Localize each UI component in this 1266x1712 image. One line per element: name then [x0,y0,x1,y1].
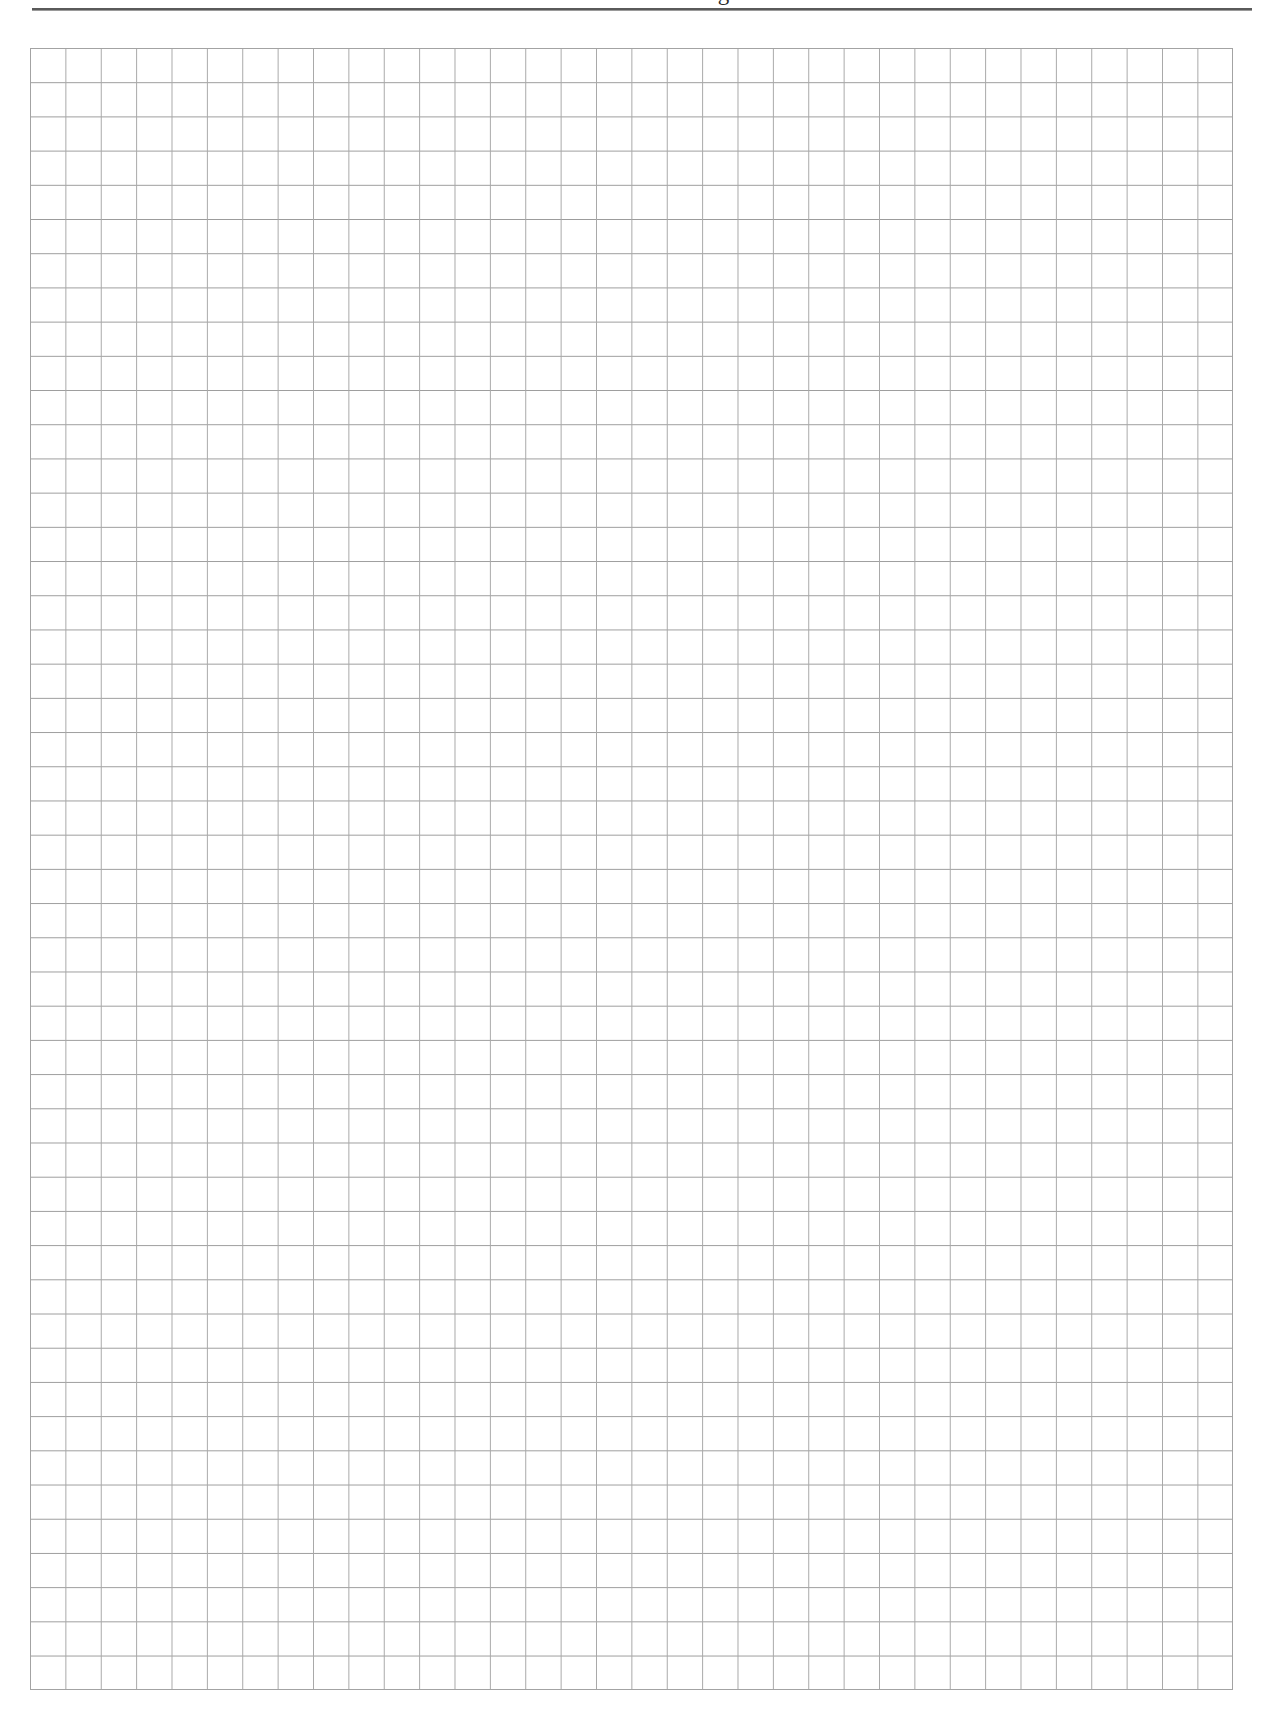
page-title: Protists and Fungi [52,0,1252,4]
header-rule [32,8,1252,11]
page-header: Protists and Fungi [32,0,1252,11]
graph-paper-grid [30,48,1233,1690]
